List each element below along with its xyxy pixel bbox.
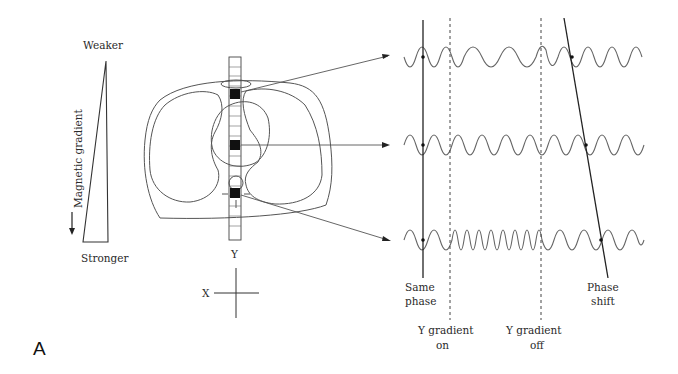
stronger-label: Stronger [81,252,129,264]
diagram-canvas: Weaker Stronger Magnetic gradient [0,0,678,374]
gradient-on-label-1: Y gradient [417,324,474,336]
phase-shift-label-2: shift [591,295,615,307]
arrow-bottom [241,195,388,240]
phase-shift-label-1: Phase [587,281,619,293]
weaker-label: Weaker [83,39,124,51]
gradient-scale: Weaker Stronger Magnetic gradient [69,39,129,264]
pointer-arrows [241,54,391,241]
arrow-right-icon [382,54,390,59]
same-phase-label-1: Same [405,281,435,293]
wave-row-middle [404,135,644,155]
waveforms [404,46,644,250]
arrow-right-icon [382,236,391,241]
voxel-bottom [230,188,240,198]
voxel-top [230,89,240,99]
magnetic-gradient-label: Magnetic gradient [72,108,84,208]
gradient-wedge [83,61,108,242]
left-lung [150,92,222,202]
voxel-middle [230,140,240,150]
xy-axes: X [202,268,259,318]
x-axis-label: X [202,287,210,299]
right-lung [243,89,322,204]
panel-label: A [33,338,46,359]
arrow-down-icon [69,228,75,235]
arrow-right-icon [382,142,390,148]
gradient-on-label-2: on [436,339,449,351]
y-column-label: Y [230,248,239,260]
gradient-off-label-1: Y gradient [505,324,562,336]
chest-cross-section: Y [144,57,332,260]
wave-row-bottom [404,230,644,250]
marker-labels: Same phase Y gradient on Y gradient off … [405,281,619,351]
gradient-off-label-2: off [530,339,545,351]
arrow-top [241,56,388,92]
wave-row-top [404,46,642,67]
same-phase-label-2: phase [405,295,436,307]
